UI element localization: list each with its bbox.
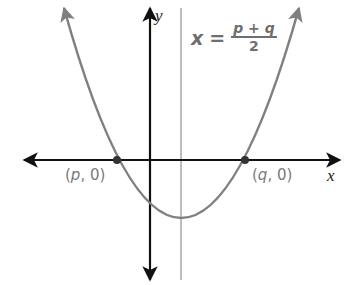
- equation-lhs: x: [191, 27, 203, 49]
- parabola-diagram: y x (p, 0) (q, 0) x = p + q 2: [0, 0, 352, 285]
- y-axis-label: y: [155, 6, 163, 26]
- numerator: p + q: [231, 20, 277, 38]
- x-axis-label: x: [327, 166, 335, 186]
- q-variable: q: [258, 166, 268, 184]
- point-q-intercept: [241, 156, 249, 164]
- equals-sign: =: [209, 27, 225, 49]
- symmetry-equation: x = p + q 2: [191, 20, 277, 55]
- denominator: 2: [249, 38, 259, 55]
- diagram-graphics: [0, 0, 352, 285]
- q-intercept-label: (q, 0): [252, 166, 292, 184]
- label-rest: , 0): [80, 166, 105, 184]
- label-rest: , 0): [267, 166, 292, 184]
- point-p-intercept: [113, 156, 121, 164]
- fraction: p + q 2: [231, 20, 277, 55]
- p-intercept-label: (p, 0): [65, 166, 105, 184]
- p-variable: p: [71, 166, 81, 184]
